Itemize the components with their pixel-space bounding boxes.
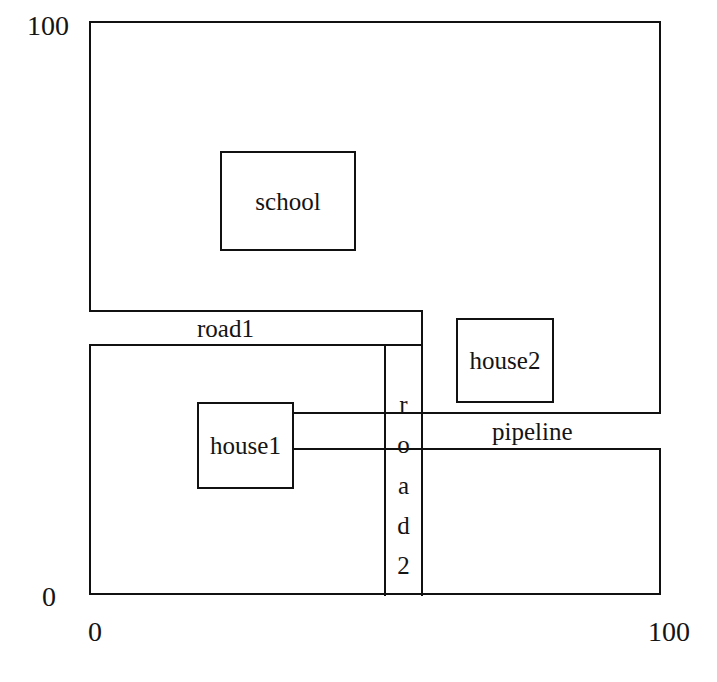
x-axis-max-label: 100 bbox=[648, 618, 690, 646]
object-house2[interactable]: house2 bbox=[456, 318, 554, 403]
diagram-canvas: 100 0 0 100 school road1 house2 pipeline… bbox=[0, 0, 717, 682]
y-axis-max-label: 100 bbox=[27, 12, 69, 40]
object-pipeline[interactable] bbox=[293, 412, 661, 450]
object-road1[interactable] bbox=[89, 310, 423, 346]
object-school-label: school bbox=[255, 189, 320, 214]
x-axis-min-label: 0 bbox=[88, 618, 102, 646]
object-house2-label: house2 bbox=[470, 348, 541, 373]
object-school[interactable]: school bbox=[220, 151, 356, 251]
object-house1[interactable]: house1 bbox=[197, 402, 294, 489]
object-road1-label: road1 bbox=[197, 316, 254, 341]
object-house1-label: house1 bbox=[210, 433, 281, 458]
object-road2[interactable] bbox=[384, 344, 423, 596]
plot-area-frame bbox=[89, 21, 661, 595]
y-axis-min-label: 0 bbox=[42, 583, 56, 611]
object-pipeline-label: pipeline bbox=[492, 419, 573, 444]
